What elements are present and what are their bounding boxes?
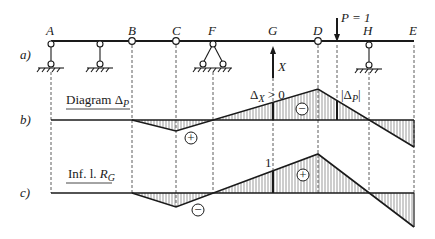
label-G: G (268, 23, 278, 38)
label-C: C (172, 23, 181, 38)
unit-load-arrow-icon (334, 18, 340, 42)
hinge-B-icon (129, 38, 136, 45)
delta-x-label: ΔX > 0 (250, 87, 285, 104)
hinge-C-icon (173, 38, 180, 45)
unit-value-label: 1 (265, 155, 272, 170)
pendulum-support-2-icon (86, 41, 113, 72)
pendulum-support-A-icon (37, 41, 64, 72)
redundant-force-X-icon (270, 46, 276, 78)
diagram-svg: a) b) c) A B C F G D H E (0, 0, 435, 239)
pendulum-support-H-icon (355, 42, 382, 73)
label-B: B (128, 23, 136, 38)
svg-text:Inf. l. RG: Inf. l. RG (68, 166, 115, 183)
label-D: D (312, 23, 323, 38)
redundant-label: X (277, 59, 287, 74)
hinge-D-icon (315, 38, 322, 45)
svg-text:+: + (299, 167, 306, 182)
diagram-c-title: Inf. l. RG (66, 166, 115, 183)
part-a-label: a) (20, 47, 31, 62)
label-E: E (408, 23, 417, 38)
svg-text:−: − (194, 202, 201, 217)
label-H: H (362, 23, 373, 38)
part-c-label: c) (20, 185, 30, 200)
diagram-b-title: Diagram ΔP (66, 92, 130, 109)
load-label: P = 1 (340, 10, 370, 25)
svg-text:Diagram ΔP: Diagram ΔP (66, 92, 129, 109)
pin-support-F-icon (193, 41, 232, 72)
point-labels: A B C F G D H E (45, 23, 417, 38)
svg-text:−: − (298, 101, 305, 116)
label-A: A (45, 23, 54, 38)
sign-minus-c-icon: − (192, 202, 204, 217)
diagram-c (51, 154, 414, 227)
part-b-label: b) (20, 112, 31, 127)
delta-p-label: |ΔP| (341, 87, 361, 104)
sign-plus-b-icon: + (185, 130, 197, 145)
svg-text:+: + (187, 130, 194, 145)
label-F: F (207, 23, 217, 38)
structural-diagram: a) b) c) A B C F G D H E (0, 0, 435, 239)
